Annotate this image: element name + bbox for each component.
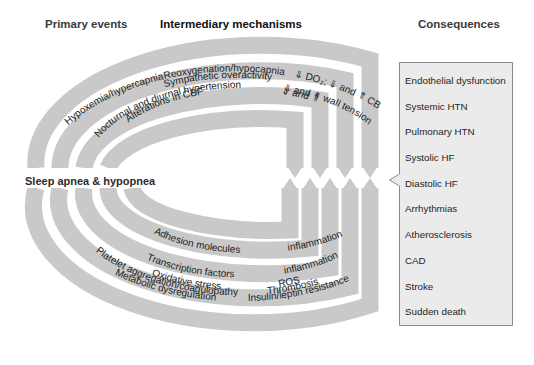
consequence-item: CAD (405, 248, 506, 274)
down-arrows (287, 166, 378, 178)
consequence-item: Endothelial dysfunction (405, 68, 506, 94)
consequence-item: Pulmonary HTN (405, 119, 506, 145)
consequence-item: Arrhythmias (405, 196, 506, 222)
consequences-box: Endothelial dysfunction Systemic HTN Pul… (399, 62, 512, 326)
consequences-list: Endothelial dysfunction Systemic HTN Pul… (405, 68, 506, 325)
consequence-item: Sudden death (405, 299, 506, 325)
consequence-item: Systemic HTN (405, 94, 506, 120)
sleep-apnea-label: Sleep apnea & hypopnea (25, 175, 155, 187)
consequence-item: Stroke (405, 274, 506, 300)
consequence-item: Diastolic HF (405, 171, 506, 197)
consequence-item: Atherosclerosis (405, 222, 506, 248)
up-arrows (282, 178, 378, 190)
consequence-item: Systolic HF (405, 145, 506, 171)
